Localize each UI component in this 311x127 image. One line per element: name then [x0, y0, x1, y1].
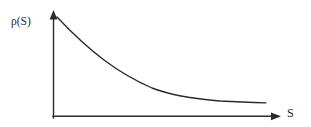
density-curve	[57, 17, 266, 103]
y-axis-label: ρ(S)	[11, 15, 31, 28]
density-decay-plot: ρ(S) S	[0, 0, 311, 127]
y-axis-arrowhead	[50, 10, 58, 20]
x-axis-label: S	[287, 106, 294, 120]
chart-figure: ρ(S) S	[0, 0, 311, 127]
x-axis-arrowhead	[271, 112, 281, 120]
